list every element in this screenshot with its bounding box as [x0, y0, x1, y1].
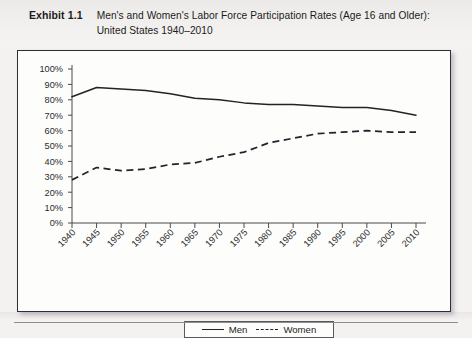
figure-frame: 0%10%20%30%40%50%60%70%80%90%100% 194019… [17, 50, 451, 312]
chart-plot-area: 0%10%20%30%40%50%60%70%80%90%100% 194019… [18, 51, 452, 313]
x-axis-tick-label: 1945 [80, 227, 102, 249]
x-axis-tick-labels: 1940194519501955196019651970197519801985… [56, 227, 422, 249]
y-axis-tick-label: 30% [45, 172, 63, 182]
y-axis-tick-label: 60% [45, 126, 63, 136]
exhibit-title: Men's and Women's Labor Force Participat… [97, 9, 449, 38]
caption-row: Exhibit 1.1 Men's and Women's Labor Forc… [29, 9, 449, 38]
y-axis-tick-label: 0% [50, 218, 63, 228]
chart-legend: Men Women [184, 321, 334, 338]
page-horizontal-rule [14, 322, 458, 323]
x-axis-tick-label: 1955 [130, 227, 152, 249]
x-axis-tick-label: 2000 [351, 227, 373, 249]
y-axis-tick-label: 40% [45, 157, 63, 167]
y-axis-tick-label: 50% [45, 141, 63, 151]
x-axis-tick-label: 2005 [375, 227, 397, 249]
y-axis-tick-label: 90% [45, 80, 63, 90]
legend-swatch-solid-icon [202, 329, 224, 330]
y-axis-tick-label: 70% [45, 111, 63, 121]
x-axis-tick-label: 1990 [302, 227, 324, 249]
x-axis-tick-label: 1985 [277, 227, 299, 249]
series-line-men [72, 87, 416, 115]
x-axis-tick-label: 1965 [179, 227, 201, 249]
x-axis-tick-label: 1960 [154, 227, 176, 249]
x-axis-tick-label: 1970 [203, 227, 225, 249]
y-axis-tick-label: 80% [45, 95, 63, 105]
legend-entry-men: Men [202, 324, 248, 335]
exhibit-header: Exhibit 1.1 Men's and Women's Labor Forc… [0, 0, 472, 48]
y-axis-tick-label: 20% [45, 188, 63, 198]
x-axis-tick-label: 1975 [228, 227, 250, 249]
x-axis-tick-label: 1940 [56, 227, 78, 249]
x-axis-tick-label: 1980 [252, 227, 274, 249]
exhibit-number-label: Exhibit 1.1 [29, 9, 83, 21]
x-axis-tick-label: 1995 [326, 227, 348, 249]
y-axis-tick-marks [68, 69, 72, 223]
line-chart: 0%10%20%30%40%50%60%70%80%90%100% 194019… [18, 51, 452, 313]
y-axis-tick-label: 100% [40, 64, 64, 74]
y-axis-tick-labels: 0%10%20%30%40%50%60%70%80%90%100% [40, 64, 64, 228]
legend-entry-women: Women [256, 324, 316, 335]
legend-label-men: Men [229, 324, 248, 335]
y-axis-tick-label: 10% [45, 203, 63, 213]
x-axis-tick-label: 2010 [400, 227, 422, 249]
series-line-women [72, 131, 416, 180]
legend-swatch-dashed-icon [256, 329, 278, 330]
x-axis-tick-label: 1950 [105, 227, 127, 249]
scan-shadow [0, 312, 472, 320]
legend-label-women: Women [283, 324, 316, 335]
